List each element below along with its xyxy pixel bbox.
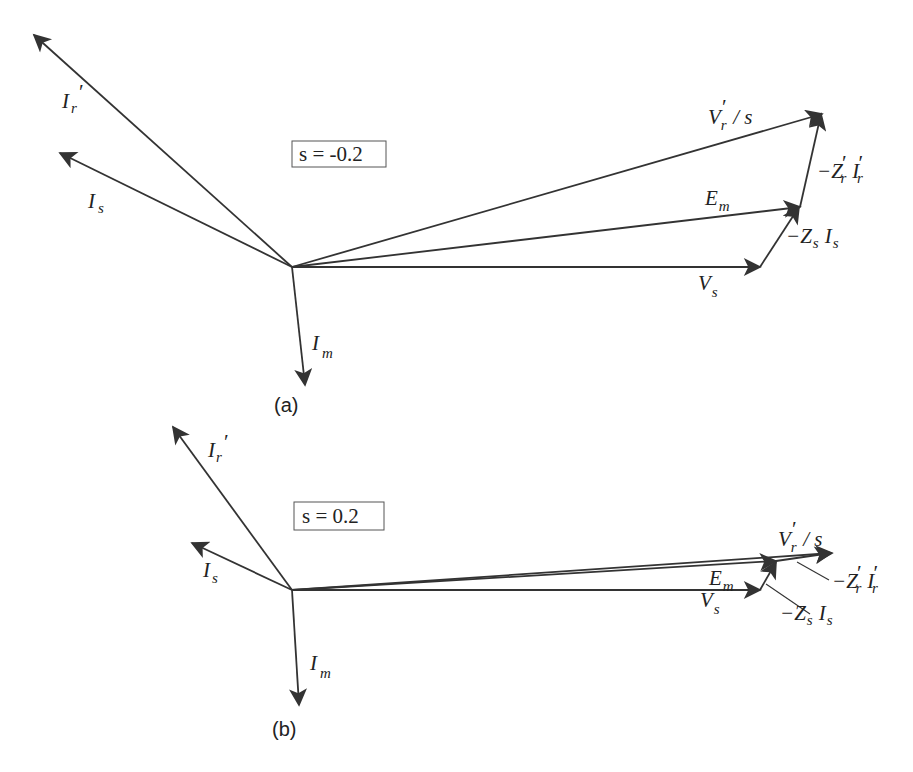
slip-box-a: s = -0.2	[292, 141, 386, 167]
label-is: Is	[202, 558, 218, 586]
label-im: Im	[311, 331, 333, 361]
caption-b: (b)	[272, 718, 296, 740]
label-em: Em	[708, 566, 734, 594]
leader-zr-ir	[797, 562, 829, 580]
slip-value-a: s = -0.2	[299, 142, 363, 166]
label-is: Is	[87, 189, 104, 216]
vector-im	[292, 590, 299, 705]
label-em: Em	[704, 186, 730, 214]
label-neg-zr-ir: −Z′rI′r	[817, 151, 863, 186]
label-neg-zs-is: −ZsIs	[786, 224, 839, 251]
panel-b: s = 0.2 Ir′ Is Im Vs Em Vr′/ s −ZsIs −Z′…	[173, 427, 878, 740]
vector-ir-prime	[173, 427, 292, 590]
panel-a: s = -0.2 Ir′ Is Im Vs Em Vr′/ s −ZsIs −Z…	[34, 35, 863, 416]
vector-vr-over-s	[292, 553, 832, 590]
label-vr-over-s: Vr′/ s	[708, 95, 753, 133]
label-ir-prime: Ir′	[207, 430, 228, 465]
slip-box-b: s = 0.2	[294, 502, 384, 530]
label-neg-zs-is: −ZsIs	[780, 601, 833, 628]
vector-em	[292, 207, 800, 267]
label-vr-over-s: Vr′/ s	[778, 517, 823, 555]
label-ir-prime: Ir′	[61, 80, 83, 116]
phasor-diagram-canvas: s = -0.2 Ir′ Is Im Vs Em Vr′/ s −ZsIs −Z…	[0, 0, 913, 772]
vector-ir-prime	[34, 35, 292, 267]
label-neg-zr-ir: −Z′rI′r	[832, 561, 878, 596]
label-vs: Vs	[700, 588, 720, 617]
caption-a: (a)	[274, 394, 298, 416]
label-im: Im	[309, 651, 331, 681]
slip-value-b: s = 0.2	[302, 504, 359, 528]
vector-vr-over-s	[292, 114, 822, 267]
label-vs: Vs	[698, 271, 718, 300]
vector-im	[292, 267, 305, 385]
